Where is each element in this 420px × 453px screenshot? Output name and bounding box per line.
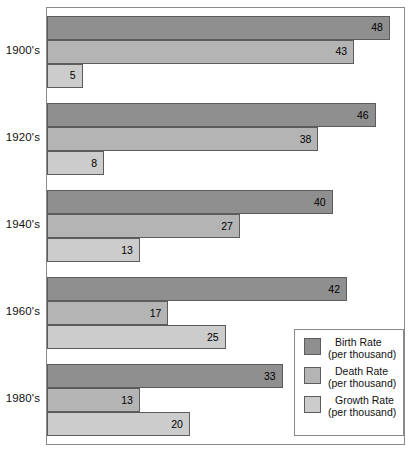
- bar-value-label: 43: [335, 46, 353, 57]
- bar-value-label: 42: [328, 284, 346, 295]
- legend-item: Death Rate(per thousand): [304, 366, 403, 389]
- bar-value-label: 8: [91, 158, 103, 169]
- bar-value-label: 33: [264, 371, 282, 382]
- bar-value-label: 27: [221, 221, 239, 232]
- legend-swatch-icon: [304, 396, 321, 413]
- legend-label: Death Rate: [335, 366, 396, 378]
- chart-legend: Birth Rate(per thousand)Death Rate(per t…: [294, 329, 404, 436]
- bar: 13: [47, 238, 140, 262]
- bar: 13: [47, 388, 140, 412]
- bar: 27: [47, 214, 240, 238]
- bar: 33: [47, 364, 283, 388]
- bar: 42: [47, 277, 347, 301]
- bar: 5: [47, 64, 83, 88]
- legend-sublabel: (per thousand): [328, 349, 396, 361]
- legend-swatch-icon: [304, 338, 321, 355]
- bar-value-label: 13: [121, 395, 139, 406]
- bar: 8: [47, 151, 104, 175]
- category-label-4: 1980's: [6, 392, 40, 404]
- bar-value-label: 20: [171, 419, 189, 430]
- bar-value-label: 25: [207, 332, 225, 343]
- bar-value-label: 5: [70, 70, 82, 81]
- bar-value-label: 17: [150, 308, 168, 319]
- bar: 25: [47, 325, 226, 349]
- legend-label: Birth Rate: [335, 337, 396, 349]
- bar: 20: [47, 412, 190, 436]
- legend-label: Growth Rate: [335, 395, 396, 407]
- category-label-0: 1900's: [6, 44, 40, 56]
- bar: 40: [47, 190, 333, 214]
- legend-item: Growth Rate(per thousand): [304, 395, 403, 418]
- bar-value-label: 38: [300, 134, 318, 145]
- bar: 38: [47, 127, 318, 151]
- category-label-2: 1940's: [6, 218, 40, 230]
- category-label-3: 1960's: [6, 305, 40, 317]
- bar: 17: [47, 301, 168, 325]
- bar-value-label: 40: [314, 197, 332, 208]
- legend-sublabel: (per thousand): [328, 378, 396, 390]
- legend-swatch-icon: [304, 367, 321, 384]
- legend-item: Birth Rate(per thousand): [304, 337, 403, 360]
- bar-value-label: 13: [121, 245, 139, 256]
- category-axis-labels: 1900's1920's1940's1960's1980's: [0, 7, 44, 445]
- bar: 43: [47, 40, 354, 64]
- bar-chart: 1900's1920's1940's1960's1980's 484354638…: [0, 0, 420, 453]
- bar: 46: [47, 103, 376, 127]
- category-label-1: 1920's: [6, 131, 40, 143]
- legend-sublabel: (per thousand): [328, 407, 396, 419]
- bar-value-label: 46: [357, 110, 375, 121]
- bar: 48: [47, 16, 390, 40]
- bar-value-label: 48: [371, 22, 389, 33]
